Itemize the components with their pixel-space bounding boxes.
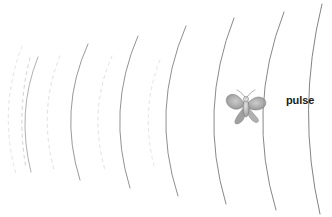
diagram-canvas: pulse	[0, 0, 332, 217]
pulse-arc-faint-6	[148, 60, 160, 166]
pulse-arc-faint-4	[98, 56, 112, 170]
pulse-wavefront-group	[0, 0, 332, 217]
pulse-arc-7	[166, 26, 186, 196]
pulse-arc-faint-2	[47, 56, 60, 170]
pulse-arc-5	[120, 36, 138, 188]
pulse-arc-faint-0	[8, 46, 22, 174]
moth-icon	[224, 86, 268, 128]
pulse-label: pulse	[286, 93, 314, 107]
pulse-arc-1	[22, 57, 38, 172]
moth	[224, 86, 268, 128]
pulse-arc-10	[308, 4, 322, 214]
pulse-arc-3	[71, 44, 88, 180]
